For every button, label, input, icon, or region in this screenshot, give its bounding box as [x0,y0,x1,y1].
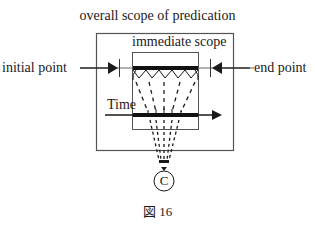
profiled-segment-bottom [133,113,198,117]
profiled-segment-top [133,66,198,70]
overall-scope-box [97,34,234,151]
conceptualizer-pointer [161,167,167,171]
convergence-marker [159,160,169,163]
end-point-arrowhead [212,62,222,74]
end-point-label: end point [254,61,307,75]
overall-scope-title: overall scope of predication [0,9,315,23]
immediate-scope-box [133,53,199,130]
figure-caption: 図 16 [0,205,315,218]
viewing-lines-upper [136,82,195,112]
time-label: Time [107,98,136,112]
viewing-lines-lower [150,120,179,160]
zigzag-line [133,70,198,78]
time-arrowhead [212,110,222,120]
conceptualizer-label: C [154,174,174,187]
initial-point-label: initial point [2,61,67,75]
time-ticks [148,108,181,113]
left-hook [133,70,136,80]
initial-point-arrowhead [108,62,118,74]
immediate-scope-label: immediate scope [132,35,199,49]
right-hook [195,70,198,80]
